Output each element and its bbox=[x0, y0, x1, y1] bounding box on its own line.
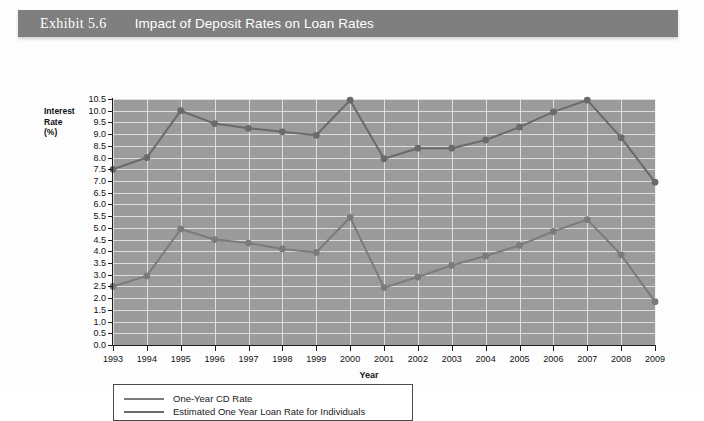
y-tick bbox=[108, 286, 113, 287]
data-point bbox=[482, 137, 489, 144]
y-tick-label: 5.5 bbox=[93, 212, 106, 221]
data-point bbox=[211, 120, 218, 127]
y-tick-label: 0.5 bbox=[93, 329, 106, 338]
x-tick-label: 1999 bbox=[306, 354, 326, 364]
legend-item-cd-rate: One-Year CD Rate bbox=[124, 392, 252, 405]
y-tick-label: 8.5 bbox=[93, 142, 106, 151]
x-tick-label: 1993 bbox=[103, 354, 123, 364]
y-axis-ticks: 0.00.51.01.52.02.53.03.54.04.55.05.56.06… bbox=[112, 99, 113, 345]
data-point bbox=[448, 145, 455, 152]
data-point bbox=[143, 272, 150, 279]
y-tick-label: 4.0 bbox=[93, 247, 106, 256]
x-tick-label: 2006 bbox=[543, 354, 563, 364]
y-axis-title: Interest Rate (%) bbox=[44, 106, 88, 138]
x-axis-ticks: 1993199419951996199719981999200020012002… bbox=[113, 346, 655, 368]
y-tick-label: 10.0 bbox=[88, 107, 106, 116]
x-tick bbox=[418, 346, 419, 351]
data-point bbox=[381, 284, 388, 291]
data-point bbox=[448, 262, 455, 269]
y-tick bbox=[108, 193, 113, 194]
x-tick bbox=[621, 346, 622, 351]
data-point bbox=[143, 154, 150, 161]
y-axis-title-line-2: Rate bbox=[44, 117, 88, 128]
y-tick-label: 0.0 bbox=[93, 341, 106, 350]
data-point bbox=[279, 246, 286, 253]
x-tick-label: 1994 bbox=[137, 354, 157, 364]
data-point bbox=[584, 97, 591, 104]
y-tick bbox=[108, 204, 113, 205]
y-tick bbox=[108, 158, 113, 159]
data-point bbox=[550, 228, 557, 235]
y-tick-label: 9.0 bbox=[93, 130, 106, 139]
data-point bbox=[313, 249, 320, 256]
x-tick bbox=[215, 346, 216, 351]
x-tick-label: 2004 bbox=[476, 354, 496, 364]
y-tick-label: 7.0 bbox=[93, 177, 106, 186]
y-tick-label: 3.5 bbox=[93, 259, 106, 268]
x-tick bbox=[181, 346, 182, 351]
chart-container: Interest Rate (%) 0.00.51.01.52.02.53.03… bbox=[0, 40, 704, 393]
y-tick-label: 4.5 bbox=[93, 236, 106, 245]
x-tick-label: 1997 bbox=[238, 354, 258, 364]
x-tick bbox=[249, 346, 250, 351]
x-tick bbox=[384, 346, 385, 351]
x-tick-label: 2002 bbox=[408, 354, 428, 364]
x-tick-label: 2003 bbox=[442, 354, 462, 364]
y-tick bbox=[108, 240, 113, 241]
y-axis-title-line-3: (%) bbox=[44, 127, 88, 138]
y-tick bbox=[108, 134, 113, 135]
y-tick-label: 1.5 bbox=[93, 306, 106, 315]
chart-legend: One-Year CD Rate Estimated One Year Loan… bbox=[113, 384, 413, 421]
legend-label-cd-rate: One-Year CD Rate bbox=[173, 393, 252, 404]
data-point bbox=[618, 251, 625, 258]
legend-item-loan-rate: Estimated One Year Loan Rate for Individ… bbox=[124, 405, 365, 418]
y-tick-label: 2.5 bbox=[93, 282, 106, 291]
x-axis-title-text: Year bbox=[359, 370, 378, 380]
data-point bbox=[482, 253, 489, 260]
exhibit-title: Impact of Deposit Rates on Loan Rates bbox=[135, 16, 374, 31]
x-tick bbox=[147, 346, 148, 351]
x-tick bbox=[350, 346, 351, 351]
exhibit-number: Exhibit 5.6 bbox=[40, 16, 107, 32]
y-tick bbox=[108, 169, 113, 170]
data-point bbox=[414, 274, 421, 281]
data-point bbox=[516, 242, 523, 249]
y-tick-label: 8.0 bbox=[93, 154, 106, 163]
y-tick-label: 3.0 bbox=[93, 271, 106, 280]
x-tick-label: 2005 bbox=[509, 354, 529, 364]
x-tick-label: 2000 bbox=[340, 354, 360, 364]
gridline-vertical bbox=[655, 99, 656, 345]
y-axis-title-line-1: Interest bbox=[44, 106, 88, 117]
y-tick bbox=[108, 111, 113, 112]
legend-label-loan-rate: Estimated One Year Loan Rate for Individ… bbox=[173, 406, 365, 417]
data-point bbox=[652, 298, 659, 305]
y-tick-label: 7.5 bbox=[93, 165, 106, 174]
y-tick-label: 9.5 bbox=[93, 118, 106, 127]
x-tick bbox=[553, 346, 554, 351]
y-tick bbox=[108, 298, 113, 299]
data-point bbox=[245, 125, 252, 132]
y-tick bbox=[108, 146, 113, 147]
y-tick bbox=[108, 181, 113, 182]
data-series-layer bbox=[113, 99, 655, 345]
x-tick-label: 2009 bbox=[645, 354, 665, 364]
x-tick bbox=[486, 346, 487, 351]
y-tick-label: 6.5 bbox=[93, 189, 106, 198]
data-point bbox=[381, 155, 388, 162]
x-tick bbox=[655, 346, 656, 351]
y-tick bbox=[108, 310, 113, 311]
legend-swatch-loan-rate bbox=[124, 411, 164, 413]
y-tick bbox=[108, 122, 113, 123]
plot-area bbox=[113, 99, 655, 345]
data-point bbox=[584, 216, 591, 223]
legend-swatch-cd-rate bbox=[124, 398, 164, 400]
x-axis-title: Year bbox=[0, 370, 704, 380]
y-tick bbox=[108, 99, 113, 100]
data-point bbox=[347, 214, 354, 221]
x-tick bbox=[113, 346, 114, 351]
series-line bbox=[113, 100, 655, 182]
y-tick bbox=[108, 322, 113, 323]
x-tick-label: 2001 bbox=[374, 354, 394, 364]
data-point bbox=[652, 179, 659, 186]
